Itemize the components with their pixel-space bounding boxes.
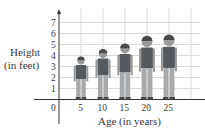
x-tick-0: 0	[51, 103, 56, 113]
x-tick-5: 5	[78, 103, 83, 113]
x-axis-label: Age (in years)	[98, 115, 161, 127]
x-tick-10: 10	[98, 103, 108, 113]
y-tick-6: 6	[51, 29, 56, 39]
x-tick-20: 20	[142, 103, 152, 113]
x-tick-25: 25	[164, 103, 174, 113]
y-tick-2: 2	[51, 73, 56, 83]
y-tick-5: 5	[51, 40, 56, 50]
y-axis-arrow-icon	[57, 9, 61, 14]
y-tick-1: 1	[51, 84, 56, 94]
y-tick-4: 4	[51, 51, 56, 61]
x-tick-15: 15	[120, 103, 130, 113]
y-tick-7: 7	[51, 18, 56, 28]
height-vs-age-chart: Height (in feet) Age (in years) 1234567 …	[0, 0, 205, 133]
y-tick-3: 3	[51, 62, 56, 72]
y-axis-label-line2: (in feet)	[4, 59, 39, 71]
y-axis-label-line1: Height	[10, 46, 40, 58]
